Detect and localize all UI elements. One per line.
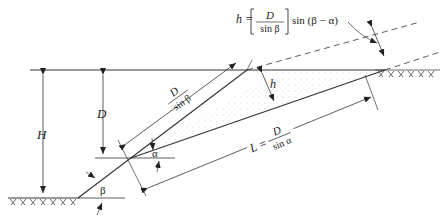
- svg-text:h =: h =: [236, 12, 253, 26]
- slope-diagram: H D D sin β h L = D sin α α β h = D sin …: [0, 0, 447, 221]
- beta-arrow-upper: [86, 172, 95, 178]
- H-label: H: [36, 127, 47, 142]
- h-formula: h = D sin β sin (β − α): [236, 9, 338, 34]
- alpha-arrow-lower: [157, 161, 159, 172]
- D-label: D: [96, 106, 107, 121]
- failure-plane-extension: [385, 52, 440, 70]
- svg-text:sin (β − α): sin (β − α): [292, 14, 338, 27]
- L-tick-end: [365, 75, 378, 110]
- slope-length-tick-start: [118, 140, 146, 196]
- D-over-sin-beta-label: D sin β: [161, 79, 195, 113]
- top-ground-hatch: [375, 70, 440, 77]
- beta-label: β: [100, 184, 106, 196]
- formula-leader: [348, 22, 377, 43]
- h-label: h: [270, 77, 276, 91]
- bottom-ground-hatch: [10, 199, 76, 205]
- svg-text:sin β: sin β: [260, 23, 279, 34]
- svg-text:D: D: [265, 9, 274, 21]
- beta-arrow-lower: [97, 203, 102, 215]
